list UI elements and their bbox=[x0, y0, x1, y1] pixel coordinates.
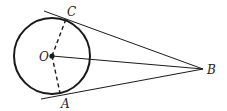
center-point-o bbox=[49, 53, 54, 58]
geometry-diagram: O C A B bbox=[0, 0, 227, 111]
label-o: O bbox=[39, 50, 49, 64]
radius-oc bbox=[52, 19, 66, 56]
label-c: C bbox=[67, 5, 76, 19]
radius-oa bbox=[52, 56, 60, 93]
tangent-line-bc bbox=[44, 11, 203, 69]
label-b: B bbox=[206, 63, 216, 77]
label-a: A bbox=[60, 97, 70, 111]
segment-ob bbox=[52, 56, 203, 69]
tangent-line-ba bbox=[41, 69, 203, 99]
